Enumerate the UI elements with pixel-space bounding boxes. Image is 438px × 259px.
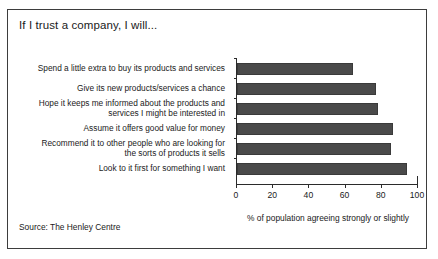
category-label: Give its new products/services a chance (77, 84, 225, 94)
bar-row (237, 79, 418, 99)
x-tick-label: 100 (410, 190, 424, 200)
y-tick (234, 78, 237, 79)
bar (237, 143, 391, 155)
bar-row (237, 139, 418, 159)
x-tick-label: 0 (234, 190, 239, 200)
x-tick (417, 184, 418, 188)
category-label-row: Give its new products/services a chance (14, 79, 230, 99)
bar-series (236, 59, 418, 184)
x-tick (308, 184, 309, 188)
plot-area: Spend a little extra to buy its products… (8, 59, 428, 209)
x-tick (381, 184, 382, 188)
category-label: Spend a little extra to buy its products… (38, 64, 225, 74)
category-label: Recommend it to other people who are loo… (41, 139, 225, 158)
bar (237, 103, 378, 115)
bar-row (237, 99, 418, 119)
category-label: Look to it first for something I want (99, 164, 225, 174)
category-label: Assume it offers good value for money (84, 124, 225, 134)
x-axis-end-cap (417, 176, 418, 184)
category-label-row: Look to it first for something I want (14, 159, 230, 179)
bar-row (237, 159, 418, 179)
y-tick (234, 98, 237, 99)
x-tick (345, 184, 346, 188)
x-tick-label: 60 (340, 190, 350, 200)
y-tick (234, 158, 237, 159)
category-label-row: Hope it keeps me informed about the prod… (14, 99, 230, 119)
x-tick-label: 80 (376, 190, 386, 200)
x-tick-label: 40 (304, 190, 314, 200)
chart-title: If I trust a company, I will... (19, 19, 157, 31)
x-axis-label: % of population agreeing strongly or sli… (237, 213, 419, 223)
category-label-row: Assume it offers good value for money (14, 119, 230, 139)
x-tick-label: 20 (267, 190, 277, 200)
bar (237, 123, 393, 135)
y-tick (234, 138, 237, 139)
chart-frame: If I trust a company, I will... Spend a … (7, 9, 427, 249)
source-note: Source: The Henley Centre (19, 222, 120, 232)
bar (237, 83, 376, 95)
bar-row (237, 119, 418, 139)
category-label-row: Recommend it to other people who are loo… (14, 139, 230, 159)
y-tick (234, 118, 237, 119)
category-label-column: Spend a little extra to buy its products… (14, 59, 230, 179)
y-tick (234, 58, 237, 59)
x-tick (236, 184, 237, 188)
x-axis-line (236, 184, 418, 185)
category-label: Hope it keeps me informed about the prod… (39, 99, 225, 118)
bar (237, 63, 353, 75)
bar-row (237, 59, 418, 79)
category-label-row: Spend a little extra to buy its products… (14, 59, 230, 79)
x-tick (272, 184, 273, 188)
bar (237, 163, 407, 175)
